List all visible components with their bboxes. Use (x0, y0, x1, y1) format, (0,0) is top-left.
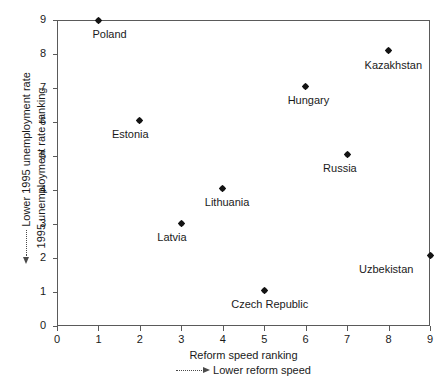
y-axis-tick (53, 88, 58, 89)
arrow-right-icon (176, 366, 210, 375)
x-axis-tick (140, 326, 141, 331)
data-point-label: Czech Republic (231, 298, 308, 311)
data-point-label: Poland (92, 28, 126, 41)
x-axis-tick (223, 326, 224, 331)
x-axis-tick-label: 8 (374, 333, 404, 346)
x-axis-tick-label: 5 (249, 333, 279, 346)
x-axis-title: Reform speed ranking (57, 348, 430, 362)
x-axis-tick-label: 6 (291, 333, 321, 346)
x-axis-tick (389, 326, 390, 331)
y-axis-direction-note: Lower 1995 unemployment rate (19, 15, 34, 321)
x-axis-tick (430, 326, 431, 331)
data-point[interactable] (302, 83, 309, 90)
y-axis-tick (53, 190, 58, 191)
data-point-label: Latvia (157, 231, 186, 244)
y-axis-direction-label: Lower 1995 unemployment rate (19, 72, 34, 227)
y-axis-tick (53, 156, 58, 157)
x-axis-tick-label: 9 (415, 333, 445, 346)
data-point-label: Lithuania (205, 196, 250, 209)
x-axis-tick-label: 1 (83, 333, 113, 346)
data-point[interactable] (178, 220, 185, 227)
data-point[interactable] (95, 17, 102, 24)
y-axis-title-block: Lower 1995 unemployment rate 1995 unempl… (19, 15, 51, 321)
data-point-label: Estonia (112, 128, 149, 141)
x-axis-tick-label: 4 (208, 333, 238, 346)
x-axis-tick (98, 326, 99, 331)
x-axis-tick-label: 3 (166, 333, 196, 346)
arrow-left-icon (22, 230, 31, 264)
data-point[interactable] (219, 185, 226, 192)
data-point-label: Kazakhstan (365, 59, 422, 72)
data-point-label: Uzbekistan (359, 263, 413, 276)
y-axis-tick (53, 258, 58, 259)
y-axis-title: 1995 unemployment rate ranking (34, 15, 49, 321)
x-axis-tick (306, 326, 307, 331)
y-axis-tick (53, 20, 58, 21)
x-axis-tick (264, 326, 265, 331)
y-axis-tick (53, 54, 58, 55)
y-axis-tick (53, 224, 58, 225)
x-axis-tick-label: 0 (42, 333, 72, 346)
y-axis-tick (53, 326, 58, 327)
scatter-chart-figure: 01234567890123456789 PolandEstoniaLatvia… (0, 0, 446, 382)
data-point[interactable] (427, 252, 434, 259)
data-point-label: Hungary (288, 94, 330, 107)
x-axis-tick (347, 326, 348, 331)
x-axis-direction-label: Lower reform speed (213, 363, 311, 377)
y-axis-tick (53, 122, 58, 123)
data-point[interactable] (385, 47, 392, 54)
y-axis-tick (53, 292, 58, 293)
data-point[interactable] (261, 287, 268, 294)
data-point[interactable] (344, 151, 351, 158)
x-axis-tick (181, 326, 182, 331)
x-axis-tick-label: 2 (125, 333, 155, 346)
x-axis-tick-label: 7 (332, 333, 362, 346)
data-point[interactable] (136, 117, 143, 124)
x-axis-direction-note: Lower reform speed (57, 363, 430, 377)
data-point-label: Russia (323, 162, 357, 175)
x-axis-title-block: Reform speed ranking Lower reform speed (57, 348, 430, 377)
